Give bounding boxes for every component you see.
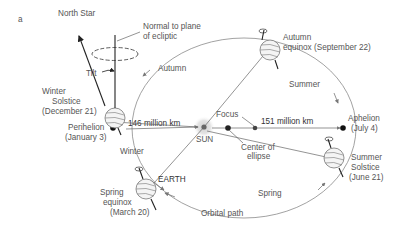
aphelion-point	[340, 125, 346, 131]
orbital-path-label: Orbital path	[201, 209, 244, 218]
aphelion-line2: (July 4)	[351, 124, 378, 133]
summer-arrow	[334, 93, 338, 103]
focus-leader	[242, 117, 254, 126]
perihelion-line1: Perihelion	[68, 123, 105, 132]
earth-autumn-equinox	[259, 29, 280, 69]
winter-solstice-line2: Solstice	[52, 97, 81, 106]
spring-equinox-line1: Spring	[100, 188, 124, 197]
earth-label: EARTH	[158, 175, 186, 184]
winter-solstice-line1: Winter	[42, 87, 66, 96]
spring-arrow	[318, 183, 325, 190]
normal-label-line2: of ecliptic	[143, 32, 177, 41]
focus-label: Focus	[216, 110, 238, 119]
center-label-line1: Center of	[241, 143, 275, 152]
season-autumn: Autumn	[158, 64, 187, 73]
spring-equinox-line3: (March 20)	[110, 208, 150, 217]
north-star-label: North Star	[58, 9, 96, 18]
tilt-arc	[102, 70, 114, 72]
normal-label-line1: Normal to plane	[143, 22, 201, 31]
winter-solstice-line3: (December 21)	[42, 107, 97, 116]
sun-label: SUN	[196, 135, 213, 144]
season-summer: Summer	[289, 80, 320, 89]
panel-label: a	[18, 15, 23, 24]
normal-leader	[117, 32, 140, 41]
autumn-equinox-line1: Autumn	[283, 33, 312, 42]
autumn-arrow	[143, 70, 150, 76]
spring-equinox-line2: equinox	[103, 198, 132, 207]
summer-solstice-line3: (June 21)	[349, 173, 384, 182]
aphelion-line1: Aphelion	[348, 114, 380, 123]
summer-solstice-line2: Solstice	[351, 163, 380, 172]
earth-spring-equinox	[135, 167, 156, 210]
orbital-path-arrow	[165, 193, 175, 197]
center-label-line2: ellipse	[247, 152, 271, 161]
summer-solstice-line1: Summer	[351, 153, 382, 162]
focus-point	[253, 126, 258, 131]
tilt-label: Tilt	[86, 69, 97, 78]
perihelion-line2: (January 3)	[65, 133, 107, 142]
season-winter: Winter	[120, 147, 144, 156]
center-of-ellipse-point	[225, 125, 231, 131]
earth-winter-solstice	[79, 36, 125, 135]
season-spring: Spring	[258, 189, 282, 198]
earth-summer-solstice	[324, 137, 344, 177]
autumn-equinox-line2: equinox (September 22)	[283, 43, 371, 52]
aphelion-distance-label: 151 million km	[261, 117, 314, 126]
earth-orbit-diagram: a SUN 146 million km 151 million km Focu…	[0, 0, 407, 229]
